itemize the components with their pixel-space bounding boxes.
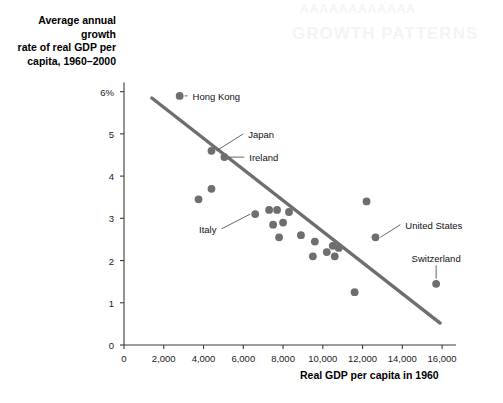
data-point-ireland: [220, 153, 228, 161]
point-label-japan: Japan: [248, 128, 274, 139]
x-tick-label: 2,000: [152, 353, 176, 364]
y-tick-label: 4: [86, 171, 114, 182]
plot-canvas: [0, 0, 503, 403]
label-leader-lines: [185, 96, 436, 279]
data-point: [285, 208, 293, 216]
data-point: [279, 219, 287, 227]
data-point: [195, 195, 203, 203]
x-tick-label: 16,000: [428, 353, 457, 364]
data-point: [335, 244, 343, 252]
data-point-united-states: [372, 233, 380, 241]
x-tick-label: 8,000: [271, 353, 295, 364]
y-tick-label: 2: [86, 255, 114, 266]
data-point-hong-kong: [176, 92, 184, 100]
data-point: [269, 221, 277, 229]
x-tick-label: 12,000: [348, 353, 377, 364]
data-point: [323, 248, 331, 256]
data-point: [275, 233, 283, 241]
data-point: [363, 198, 371, 206]
point-label-italy: Italy: [199, 223, 216, 234]
y-tick-label: 6%: [86, 86, 114, 97]
x-tick-label: 10,000: [308, 353, 337, 364]
y-tick-label: 3: [86, 213, 114, 224]
point-label-united-states: United States: [405, 219, 462, 230]
data-point: [309, 252, 317, 260]
data-point-switzerland: [432, 280, 440, 288]
trend-line: [152, 98, 440, 323]
x-tick-label: 4,000: [192, 353, 216, 364]
x-tick-label: 0: [121, 353, 126, 364]
point-label-hong-kong: Hong Kong: [193, 90, 241, 101]
data-points: [176, 92, 440, 296]
y-tick-label: 1: [86, 297, 114, 308]
data-point: [311, 238, 319, 246]
data-point: [331, 252, 339, 260]
data-point-japan: [208, 147, 216, 155]
x-tick-label: 6,000: [231, 353, 255, 364]
data-point: [265, 206, 273, 214]
data-point: [297, 231, 305, 239]
data-point-italy: [251, 210, 259, 218]
data-point: [273, 206, 281, 214]
point-label-switzerland: Switzerland: [412, 253, 461, 264]
data-point: [208, 185, 216, 193]
x-tick-label: 14,000: [388, 353, 417, 364]
data-point: [351, 288, 359, 296]
y-tick-label: 5: [86, 128, 114, 139]
point-label-ireland: Ireland: [249, 152, 278, 163]
scatter-plot-figure: AAAAAAAAAAAA GROWTH PATTERNS Average ann…: [0, 0, 503, 403]
y-tick-label: 0: [86, 340, 114, 351]
